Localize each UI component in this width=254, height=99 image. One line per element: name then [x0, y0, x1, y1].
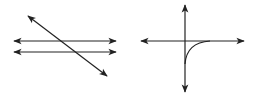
diagram-canvas — [0, 0, 254, 99]
transversal-parallel-lines-figure — [14, 16, 116, 76]
axes-with-curve-figure — [141, 5, 244, 92]
transversal-line — [28, 16, 107, 76]
asymptotic-curve — [185, 41, 210, 64]
